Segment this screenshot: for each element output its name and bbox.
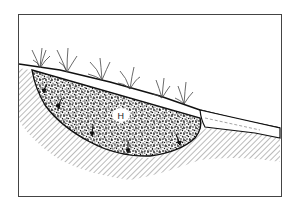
label-h: H — [118, 111, 125, 121]
soil-trench-diagram: H — [0, 0, 297, 206]
